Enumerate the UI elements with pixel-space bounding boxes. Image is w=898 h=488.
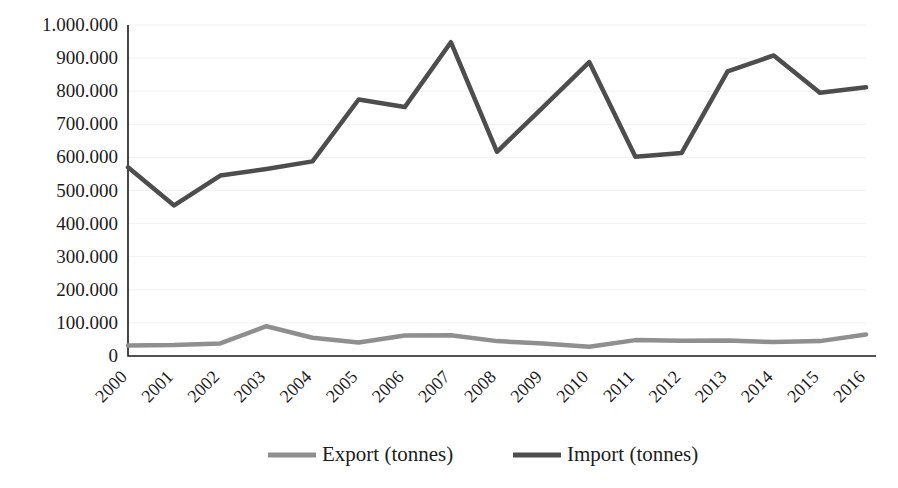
y-axis-tick-label: 300.000: [56, 246, 118, 267]
y-axis-tick-labels: 0100.000200.000300.000400.000500.000600.…: [42, 14, 118, 366]
x-axis-tick-label: 2009: [506, 367, 546, 407]
x-axis-tick-label: 2000: [91, 367, 131, 407]
data-series-group: [128, 42, 866, 347]
x-axis-tick-label: 2010: [552, 367, 592, 407]
x-axis-tick-labels: 2000200120022003200420052006200720082009…: [91, 367, 869, 407]
x-axis-tick-label: 2014: [737, 367, 777, 407]
x-axis-tick-label: 2008: [460, 367, 500, 407]
chart-legend: Export (tonnes)Import (tonnes): [268, 442, 698, 466]
chart-canvas: 0100.000200.000300.000400.000500.000600.…: [0, 0, 898, 488]
x-axis-tick-label: 2004: [276, 367, 316, 407]
y-axis-tick-label: 1.000.000: [42, 14, 118, 35]
y-axis-tick-label: 100.000: [56, 312, 118, 333]
x-axis-tick-label: 2007: [414, 367, 454, 407]
line-chart: 0100.000200.000300.000400.000500.000600.…: [0, 0, 898, 488]
y-axis-tick-label: 0: [109, 345, 119, 366]
y-axis-tick-label: 600.000: [56, 146, 118, 167]
y-axis-tick-label: 200.000: [56, 279, 118, 300]
x-axis-tick-label: 2001: [137, 367, 177, 407]
x-axis-tick-label: 2012: [645, 367, 685, 407]
y-axis-tick-label: 400.000: [56, 213, 118, 234]
x-axis-tick-label: 2015: [783, 367, 823, 407]
x-axis-tick-label: 2016: [829, 367, 869, 407]
legend-label: Export (tonnes): [322, 442, 453, 466]
x-axis-tick-label: 2002: [183, 367, 223, 407]
y-axis-tick-label: 700.000: [56, 113, 118, 134]
x-axis-tick-label: 2013: [691, 367, 731, 407]
y-axis-tick-label: 500.000: [56, 180, 118, 201]
x-axis-tick-label: 2003: [230, 367, 270, 407]
y-axis-tick-label: 800.000: [56, 80, 118, 101]
legend-label: Import (tonnes): [567, 442, 698, 466]
series-line-export: [128, 326, 866, 347]
x-axis-tick-label: 2006: [368, 367, 408, 407]
x-axis-tick-label: 2011: [599, 367, 638, 406]
x-axis-tick-label: 2005: [322, 367, 362, 407]
y-axis-tick-label: 900.000: [56, 47, 118, 68]
